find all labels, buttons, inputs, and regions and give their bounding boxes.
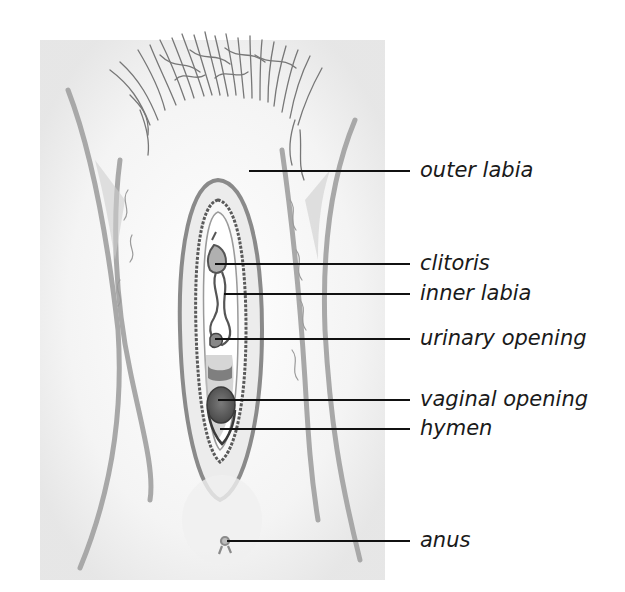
urinary-opening-shape <box>210 334 222 348</box>
leader-line-vaginal-opening <box>218 399 410 401</box>
label-clitoris: clitoris <box>420 251 490 275</box>
leader-line-urinary-opening <box>215 338 410 340</box>
leader-line-anus <box>227 540 410 542</box>
label-vaginal-opening: vaginal opening <box>420 387 588 411</box>
label-hymen: hymen <box>420 416 492 440</box>
label-urinary-opening: urinary opening <box>420 326 587 350</box>
label-outer-labia: outer labia <box>420 158 533 182</box>
leader-line-outer-labia <box>249 170 410 172</box>
vaginal-opening-shape <box>207 387 235 423</box>
leader-line-clitoris <box>215 263 410 265</box>
label-inner-labia: inner labia <box>420 281 531 305</box>
label-anus: anus <box>420 528 470 552</box>
leader-line-inner-labia <box>224 293 410 295</box>
leader-line-hymen <box>220 428 410 430</box>
